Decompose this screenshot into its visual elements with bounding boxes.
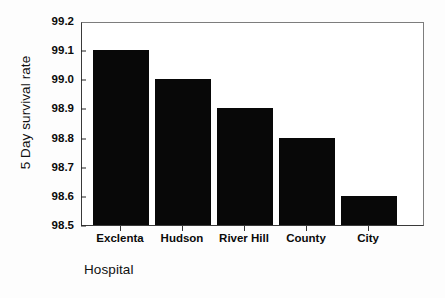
x-axis-tick-mark: [306, 226, 307, 231]
y-axis-tick-mark: [81, 226, 86, 227]
x-axis-tick-label: River Hill: [219, 232, 269, 244]
y-axis-tick-label: 98.6: [28, 191, 74, 203]
x-axis-tick-mark: [368, 226, 369, 231]
y-axis-tick-mark: [81, 109, 86, 110]
x-axis-tick-mark: [244, 226, 245, 231]
plot-area: [82, 23, 423, 225]
bar: [341, 196, 397, 225]
y-axis-tick-mark: [81, 167, 86, 168]
x-axis-tick-label: Hudson: [161, 232, 204, 244]
x-axis-tick-label: City: [357, 232, 379, 244]
y-axis-tick-mark: [81, 138, 86, 139]
x-axis-title: Hospital: [84, 262, 134, 277]
plot-frame: [81, 22, 424, 226]
x-axis-tick-mark: [120, 226, 121, 231]
x-axis-tick-label: County: [286, 232, 326, 244]
y-axis-tick-label: 98.5: [28, 220, 74, 232]
bar-chart-figure: 5 Day survival rate 98.598.698.798.898.9…: [0, 0, 445, 298]
y-axis-tick-label: 98.9: [28, 104, 74, 116]
y-axis-tick-label: 99.2: [28, 16, 74, 28]
y-axis-tick-label: 98.7: [28, 162, 74, 174]
bar: [93, 50, 149, 225]
y-axis-tick-label: 99.1: [28, 45, 74, 57]
y-axis-tick-label: 99.0: [28, 75, 74, 87]
y-axis-tick-labels: 98.598.698.798.898.999.099.199.2: [28, 22, 74, 226]
x-axis-tick-label: Exclenta: [96, 232, 143, 244]
y-axis-tick-mark: [81, 196, 86, 197]
y-axis-tick-mark: [81, 80, 86, 81]
bar: [155, 79, 211, 225]
bar: [279, 138, 335, 225]
y-axis-tick-mark: [81, 51, 86, 52]
y-axis-tick-label: 98.8: [28, 133, 74, 145]
bar: [217, 108, 273, 225]
x-axis-tick-mark: [182, 226, 183, 231]
